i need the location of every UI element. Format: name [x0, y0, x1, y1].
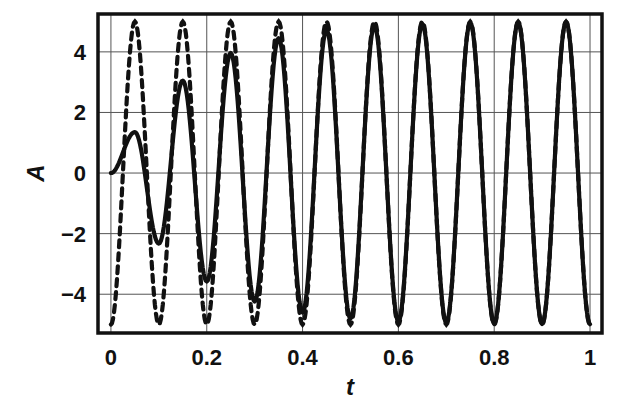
x-tick-label: 0.8	[479, 345, 510, 370]
x-tick-label: 0.4	[287, 345, 318, 370]
x-axis-label: t	[346, 373, 355, 400]
x-tick-labels: 00.20.40.60.81	[105, 345, 596, 370]
y-tick-labels: −4−2024	[61, 40, 87, 307]
gridlines	[98, 14, 602, 333]
x-tick-label: 1	[584, 345, 596, 370]
chart: 00.20.40.60.81 −4−2024 t A	[0, 0, 620, 416]
y-tick-label: 4	[74, 40, 87, 65]
y-tick-label: −2	[61, 222, 86, 247]
y-tick-label: 2	[74, 100, 86, 125]
y-axis-label: A	[22, 164, 49, 182]
x-tick-label: 0.2	[191, 345, 222, 370]
x-tick-label: 0	[105, 345, 117, 370]
y-tick-label: 0	[74, 161, 86, 186]
x-tick-label: 0.6	[383, 345, 414, 370]
y-tick-label: −4	[61, 282, 87, 307]
